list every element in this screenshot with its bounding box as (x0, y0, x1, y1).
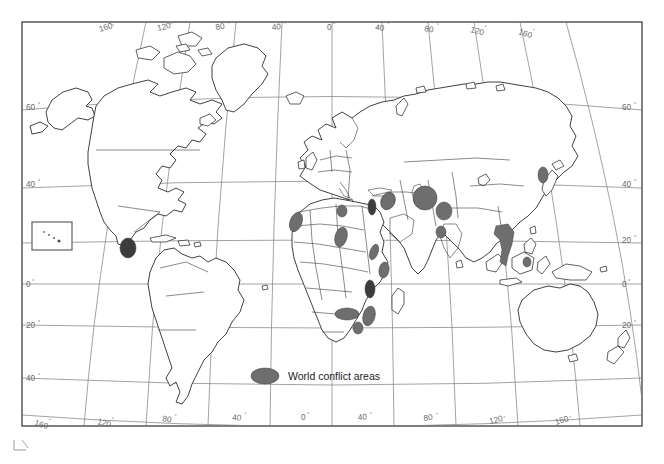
landmass-greenland (212, 44, 268, 112)
svg-text:°: ° (333, 21, 335, 27)
landmass-north-america (88, 80, 222, 246)
svg-text:°: ° (111, 23, 115, 29)
lon-label-bottom-5: 40 (358, 412, 368, 422)
svg-text:°: ° (435, 412, 438, 418)
landmass-java (500, 278, 522, 286)
lon-label-top-8: 160 (517, 27, 533, 40)
frame-corner-tick (14, 440, 28, 450)
landmass-sulawesi (537, 256, 550, 274)
map-legend: World conflict areas (251, 368, 380, 384)
world-map-figure: 160 ° 120 ° 80 ° 40 ° 0 ° 40 ° 80 ° 120 … (0, 0, 664, 464)
conflict-algeria (337, 205, 347, 217)
landmass-hispaniola (178, 240, 190, 246)
hawaii-inset (32, 222, 72, 250)
svg-text:°: ° (484, 24, 488, 30)
svg-text:°: ° (174, 413, 177, 419)
landmass-taiwan (530, 226, 536, 234)
landmass-victoria-island (136, 46, 160, 60)
conflict-angola (335, 308, 359, 320)
svg-text:°: ° (628, 278, 630, 284)
landmass-alaska (46, 88, 95, 130)
lat-label-right-4: 20 (622, 321, 632, 330)
svg-text:°: ° (634, 178, 636, 184)
longitude-labels-top: 160 ° 120 ° 80 ° 40 ° 0 ° 40 ° 80 ° 120 … (98, 21, 536, 41)
lon-label-top-5: 40 (375, 23, 385, 33)
svg-text:°: ° (387, 21, 390, 27)
landmass-australia (518, 284, 598, 352)
landmass-atlantic-islet-a (262, 285, 268, 290)
landmass-new-zealand-north (618, 330, 630, 348)
svg-text:°: ° (38, 319, 40, 325)
lon-label-bottom-6: 80 (423, 413, 434, 423)
svg-text:°: ° (568, 415, 572, 421)
lon-label-bottom-0: 160 (33, 418, 49, 431)
landmass-sri-lanka (456, 260, 463, 268)
svg-text:°: ° (370, 411, 373, 417)
landmass-tasmania (568, 354, 578, 362)
conflict-israel-lebanon (368, 199, 376, 215)
lat-label-right-1: 40 (622, 180, 632, 189)
world-conflict-map-page: 160 ° 120 ° 80 ° 40 ° 0 ° 40 ° 80 ° 120 … (0, 0, 664, 464)
landmass-ireland (298, 160, 305, 169)
lat-label-left-3: 0 (26, 280, 31, 289)
svg-text:°: ° (634, 101, 636, 107)
landmass-new-zealand-south (607, 346, 624, 364)
conflict-korea (538, 167, 548, 183)
landmass-pacific-islet-a (600, 266, 607, 272)
lat-label-left-5: 40 (26, 374, 36, 383)
lon-label-top-6: 80 (424, 24, 435, 35)
lon-label-bottom-1: 120 (97, 417, 113, 429)
conflict-kashmir (436, 226, 446, 238)
landmasses (30, 32, 630, 404)
svg-text:°: ° (38, 178, 40, 184)
lon-label-bottom-8: 160 (554, 414, 570, 427)
svg-text:°: ° (634, 319, 636, 325)
lon-label-bottom-3: 40 (232, 413, 242, 423)
lon-label-top-7: 120 (470, 25, 486, 37)
lat-label-left-0: 60 (26, 103, 36, 112)
landmass-ellesmere (178, 32, 202, 46)
landmass-baffin-island (164, 52, 196, 74)
svg-text:°: ° (32, 278, 34, 284)
conflict-iraq-iran (413, 186, 437, 210)
svg-text:°: ° (503, 415, 507, 421)
svg-text:°: ° (307, 411, 309, 417)
landmass-iceland (286, 92, 304, 104)
latitude-labels-right: 60 ° 40 ° 20 ° 0 ° 20 ° (622, 101, 636, 330)
svg-text:°: ° (244, 411, 247, 417)
svg-text:°: ° (48, 417, 52, 423)
svg-text:°: ° (111, 416, 115, 422)
landmass-arctic-islet-d (466, 82, 476, 89)
landmass-puerto-rico (194, 242, 201, 247)
lat-label-left-4: 20 (26, 321, 36, 330)
lat-label-right-2: 20 (622, 236, 632, 245)
landmass-philippines (524, 238, 536, 254)
lon-label-bottom-2: 80 (162, 414, 173, 424)
svg-text:°: ° (38, 372, 40, 378)
lat-label-right-0: 60 (622, 103, 632, 112)
lon-label-top-4: 0 (327, 23, 332, 32)
conflict-afghanistan (436, 202, 452, 220)
landmass-madagascar (392, 288, 404, 314)
lon-label-bottom-4: 0 (301, 413, 306, 422)
landmass-south-america (148, 248, 244, 404)
svg-text:°: ° (38, 101, 40, 107)
lon-label-bottom-7: 120 (488, 414, 504, 426)
landmass-arctic-islet-c (416, 86, 426, 93)
conflict-great-lakes-rwanda (365, 280, 375, 298)
landmass-aleutians (30, 122, 48, 134)
legend-label: World conflict areas (288, 370, 380, 382)
lat-label-left-1: 40 (26, 180, 36, 189)
svg-text:°: ° (634, 234, 636, 240)
conflict-philippines-mindanao (523, 257, 531, 267)
lon-label-top-2: 80 (215, 21, 226, 32)
lon-label-top-3: 40 (271, 22, 281, 32)
conflict-central-america (120, 238, 136, 258)
legend-conflict-marker (251, 368, 279, 384)
svg-text:°: ° (532, 27, 536, 33)
svg-text:°: ° (436, 22, 439, 28)
landmass-arctic-islet-b (198, 48, 212, 56)
lat-label-right-3: 0 (622, 280, 627, 289)
conflict-zimbabwe-botswana (353, 322, 363, 334)
landmass-new-guinea (552, 264, 592, 280)
